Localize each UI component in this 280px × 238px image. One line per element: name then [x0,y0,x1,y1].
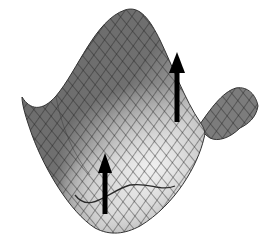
potential-surface-figure [0,0,280,238]
surface-plot [0,0,280,238]
